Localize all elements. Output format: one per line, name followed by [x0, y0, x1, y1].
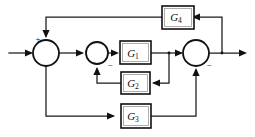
block-G2-label: G — [127, 76, 135, 88]
wire-sum1-to-sum2 — [59, 49, 84, 56]
block-G4[interactable]: G4 — [162, 6, 194, 29]
wire-G4-to-sum1 — [42, 17, 162, 38]
block-G1-label: G — [127, 46, 135, 58]
sign-minus-sum2: − — [107, 60, 112, 70]
block-G4-label: G — [170, 11, 178, 23]
wire-input-to-sum1 — [9, 49, 33, 56]
wire-G1-to-sum3 — [151, 49, 183, 56]
block-G1[interactable]: G1 — [120, 41, 151, 64]
block-G1-subscript: 1 — [135, 51, 139, 60]
block-diagram-svg: + − − G1 G2 G3 — [0, 0, 255, 137]
wire-sum2-to-G1 — [108, 49, 119, 56]
sign-plus-sum1: + — [35, 34, 40, 44]
summing-junction-2[interactable] — [86, 42, 108, 64]
block-G3-label: G — [127, 109, 135, 121]
wire-sum3-to-output — [209, 49, 247, 56]
summing-junction-3[interactable] — [183, 40, 209, 66]
wire-G1tap-to-G2 — [152, 52, 170, 87]
block-diagram-canvas: + − − G1 G2 G3 — [0, 0, 255, 137]
sign-minus-sum3: − — [206, 60, 211, 70]
block-G3-subscript: 3 — [135, 114, 139, 123]
block-G2-subscript: 2 — [135, 81, 139, 90]
block-G4-subscript: 4 — [178, 16, 182, 25]
wire-G3-to-sum3 — [151, 68, 200, 116]
block-G2[interactable]: G2 — [121, 72, 150, 94]
wire-sum1tap-to-G3 — [46, 66, 115, 120]
block-G3[interactable]: G3 — [121, 104, 151, 128]
